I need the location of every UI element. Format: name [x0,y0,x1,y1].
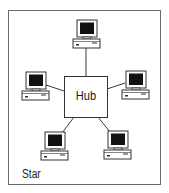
link-left [46,85,64,91]
computer-icon-right [122,71,149,99]
diagram-title: Star [22,167,41,181]
link-bottom-left [62,117,74,133]
link-right [107,83,125,89]
computer-icon-top [73,20,100,48]
computer-icon-left [22,72,49,100]
computer-icon-bottom-right [104,131,131,159]
star-topology-diagram: Hub Star [0,0,169,193]
computer-icon-bottom-left [41,132,68,160]
link-bottom-right [98,117,110,132]
hub-label: Hub [67,88,104,103]
